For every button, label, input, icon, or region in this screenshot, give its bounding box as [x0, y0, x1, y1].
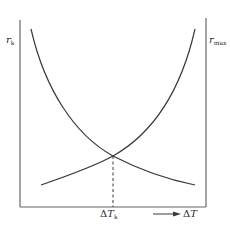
x-axis-label: ΔT	[183, 209, 197, 219]
intersection-label: ΔTk	[100, 209, 118, 220]
right-axis-label: rmax	[209, 35, 226, 46]
curve-rmax	[41, 29, 195, 185]
diagram-canvas	[0, 0, 230, 226]
arrow-right-icon	[153, 212, 181, 217]
left-axis-label: rk	[6, 35, 14, 46]
